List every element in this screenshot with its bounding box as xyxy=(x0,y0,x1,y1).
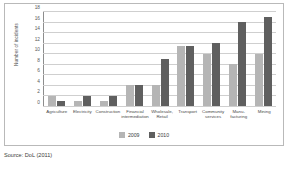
bar-group xyxy=(173,12,199,106)
legend-item-2010[interactable]: 2010 xyxy=(149,132,170,138)
bar-2009[interactable] xyxy=(48,96,56,106)
x-axis-tick-label: Agriculture xyxy=(44,109,70,133)
bar-2009[interactable] xyxy=(100,101,108,106)
legend-label: 2009 xyxy=(128,132,140,138)
y-axis-tick-label: 12 xyxy=(35,36,40,41)
y-axis-tick-label: 16 xyxy=(35,15,40,20)
bar-2010[interactable] xyxy=(212,43,220,106)
y-axis-tick-label: 2 xyxy=(37,89,40,94)
bar-2009[interactable] xyxy=(255,54,263,106)
y-axis-tick-label: 0 xyxy=(37,100,40,105)
bar-2010[interactable] xyxy=(83,96,91,106)
bar-2010[interactable] xyxy=(238,22,246,106)
bar-group xyxy=(199,12,225,106)
x-axis-tick-label: Electricity xyxy=(70,109,96,133)
bar-group xyxy=(121,12,147,106)
bar-group xyxy=(96,12,122,106)
y-axis-title: Number of incidents xyxy=(14,14,19,76)
x-axis-labels: AgricultureElectricityConstructionFinanc… xyxy=(44,109,277,133)
bar-2009[interactable] xyxy=(229,64,237,106)
bar-group xyxy=(147,12,173,106)
y-axis-tick-label: 10 xyxy=(35,47,40,52)
bar-2009[interactable] xyxy=(203,54,211,106)
legend-label: 2010 xyxy=(158,132,170,138)
x-axis-tick-label: Construction xyxy=(95,109,121,133)
bar-2009[interactable] xyxy=(74,101,82,106)
bar-group xyxy=(224,12,250,106)
source-note: Source: DoL (2011) xyxy=(4,152,52,158)
x-axis-tick-label: Wholesale,Retail xyxy=(149,109,175,133)
x-axis-tick-label: Mining xyxy=(251,109,277,133)
plot-area: 024681012141618 xyxy=(43,12,276,107)
bar-2010[interactable] xyxy=(135,85,143,106)
bar-2010[interactable] xyxy=(264,17,272,106)
y-axis-tick-label: 6 xyxy=(37,68,40,73)
bar-2010[interactable] xyxy=(109,96,117,106)
bar-2009[interactable] xyxy=(177,46,185,106)
legend-item-2009[interactable]: 2009 xyxy=(119,132,140,138)
bar-groups xyxy=(44,12,276,106)
gridline: 0 xyxy=(43,106,276,107)
chart-figure: Number of incidents 024681012141618 Agri… xyxy=(4,3,284,146)
x-axis-tick-label: Financialintermediation xyxy=(121,109,150,133)
x-axis-tick-label: Communityservices xyxy=(200,109,226,133)
bar-group xyxy=(70,12,96,106)
bar-2009[interactable] xyxy=(126,85,134,106)
bar-group xyxy=(250,12,276,106)
bar-2009[interactable] xyxy=(152,85,160,106)
bar-2010[interactable] xyxy=(57,101,65,106)
x-axis-tick-label: Manu-facturing xyxy=(226,109,252,133)
bar-2010[interactable] xyxy=(161,59,169,106)
y-axis-tick-label: 4 xyxy=(37,78,40,83)
y-axis-tick-label: 8 xyxy=(37,57,40,62)
y-axis-tick-label: 18 xyxy=(35,5,40,10)
bar-group xyxy=(44,12,70,106)
legend-swatch xyxy=(149,132,155,138)
bar-2010[interactable] xyxy=(186,46,194,106)
legend-swatch xyxy=(119,132,125,138)
y-axis-tick-label: 14 xyxy=(35,26,40,31)
x-axis-tick-label: Transport xyxy=(175,109,201,133)
chart-legend: 20092010 xyxy=(5,132,283,138)
